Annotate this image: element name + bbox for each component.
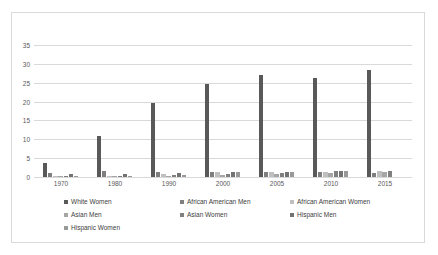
legend-label: African American Women — [297, 198, 370, 205]
x-axis-tick-label: 1970 — [54, 180, 68, 187]
x-axis-tick-label: 2000 — [216, 180, 230, 187]
legend-item[interactable]: Asian Men — [64, 211, 180, 218]
y-axis-tick-label: 25 — [23, 79, 30, 86]
x-axis-tick-label: 1990 — [162, 180, 176, 187]
y-axis-tick-label: 30 — [23, 60, 30, 67]
legend-label: African American Men — [187, 198, 251, 205]
legend-item[interactable]: White Women — [64, 198, 180, 205]
bar — [259, 75, 263, 177]
x-axis-tick-label: 2010 — [324, 180, 338, 187]
bar — [97, 136, 101, 177]
legend-swatch-icon — [290, 200, 294, 204]
legend-label: Hispanic Women — [71, 224, 120, 231]
legend-item[interactable]: African American Men — [180, 198, 290, 205]
bar — [367, 70, 371, 177]
x-axis-tick-label: 1980 — [108, 180, 122, 187]
y-axis-tick-label: 20 — [23, 98, 30, 105]
bar — [313, 78, 317, 177]
legend-item[interactable]: Asian Women — [180, 211, 290, 218]
y-axis-tick-label: 0 — [26, 174, 30, 181]
legend-swatch-icon — [64, 200, 68, 204]
legend-swatch-icon — [290, 213, 294, 217]
legend-swatch-icon — [64, 226, 68, 230]
legend-label: White Women — [71, 198, 112, 205]
legend-item[interactable]: Hispanic Men — [290, 211, 336, 218]
legend-row: White WomenAfrican American MenAfrican A… — [64, 195, 374, 208]
chart-legend: White WomenAfrican American MenAfrican A… — [64, 195, 374, 234]
legend-item[interactable]: African American Women — [290, 198, 370, 205]
bar-series-container — [34, 45, 412, 177]
chart-frame: 05101520253035 1970198019902000200520102… — [11, 12, 425, 243]
bar — [43, 163, 47, 177]
legend-swatch-icon — [180, 213, 184, 217]
legend-swatch-icon — [64, 213, 68, 217]
x-axis-tick-label: 2015 — [378, 180, 392, 187]
legend-swatch-icon — [180, 200, 184, 204]
legend-label: Asian Women — [187, 211, 227, 218]
plot-area: 05101520253035 — [34, 45, 412, 177]
legend-row: Hispanic Women — [64, 221, 374, 234]
bar — [205, 84, 209, 177]
x-axis-tick-label: 2005 — [270, 180, 284, 187]
bar — [151, 103, 155, 177]
y-axis-tick-label: 10 — [23, 136, 30, 143]
legend-label: Hispanic Men — [297, 211, 336, 218]
legend-item[interactable]: Hispanic Women — [64, 224, 180, 231]
legend-row: Asian MenAsian WomenHispanic Men — [64, 208, 374, 221]
x-axis-line — [34, 177, 412, 178]
y-axis-tick-label: 5 — [26, 155, 30, 162]
legend-label: Asian Men — [71, 211, 102, 218]
y-axis-tick-label: 35 — [23, 42, 30, 49]
y-axis-tick-label: 15 — [23, 117, 30, 124]
